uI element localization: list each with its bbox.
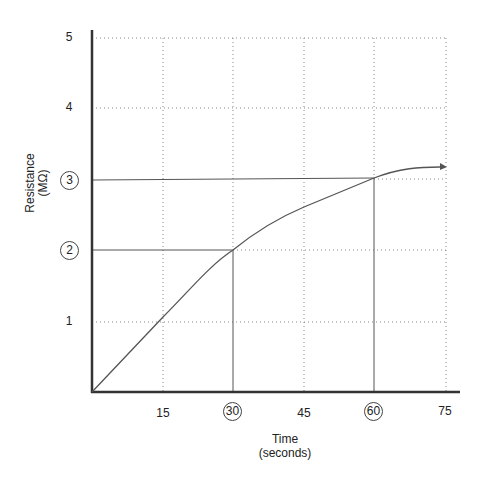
x-tick-75: 75 (433, 404, 457, 418)
y-tick-5: 5 (62, 30, 76, 44)
y-tick-2-circled: 2 (60, 241, 79, 260)
y-tick-1: 1 (62, 314, 76, 328)
resistance-curve (92, 167, 440, 392)
y-axis-label: Resistance (MΩ) (2, 150, 72, 220)
x-tick-30-circled: 30 (223, 402, 242, 421)
x-tick-60-circled: 60 (364, 402, 383, 421)
y-axis-label-line2: (MΩ) (37, 138, 50, 228)
axes (91, 30, 460, 393)
x-tick-45: 45 (292, 406, 316, 420)
x-axis-label: Time (seconds) (245, 432, 325, 460)
arrow-head-icon (440, 163, 447, 170)
x-tick-15: 15 (151, 406, 175, 420)
x-axis-label-line2: (seconds) (245, 446, 325, 460)
y-tick-4: 4 (62, 100, 76, 114)
x-axis-label-line1: Time (245, 432, 325, 446)
grid (92, 38, 446, 392)
